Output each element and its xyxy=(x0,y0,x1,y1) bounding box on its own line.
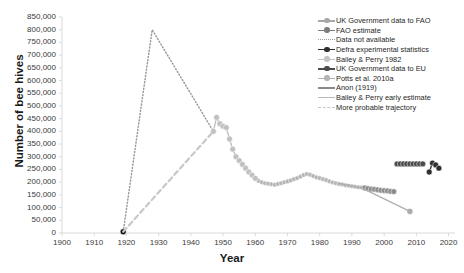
legend-item[interactable]: UK Government data to EU xyxy=(318,64,464,74)
legend-item-label: Data not available xyxy=(336,35,395,44)
data-point xyxy=(252,175,258,181)
legend-item[interactable]: Bailey & Perry 1982 xyxy=(318,54,464,64)
legend-item-label: FAO estimate xyxy=(336,26,381,35)
legend-marker-icon xyxy=(318,16,335,25)
legend-item-label: Defra experimental statistics xyxy=(336,45,429,54)
legend-item[interactable]: Data not available xyxy=(318,35,464,45)
data-point xyxy=(230,146,236,152)
chart-legend: UK Government data to FAOFAO estimateDat… xyxy=(318,16,464,112)
legend-item-label: Bailey & Perry 1982 xyxy=(336,55,401,64)
legend-item[interactable]: Potts et al. 2010a xyxy=(318,74,464,84)
bee-hives-chart: Number of bee hives Year 050,000100,0001… xyxy=(0,0,464,273)
legend-marker-icon xyxy=(318,83,335,92)
data-point xyxy=(391,189,397,195)
legend-item-label: Potts et al. 2010a xyxy=(336,74,394,83)
series-data-not-available xyxy=(123,30,213,232)
legend-marker-icon xyxy=(318,26,335,35)
data-point xyxy=(436,165,442,171)
legend-item[interactable]: More probable trajectory xyxy=(318,102,464,112)
legend-item[interactable]: UK Government data to FAO xyxy=(318,16,464,26)
legend-item-label: UK Government data to FAO xyxy=(336,16,430,25)
series-more-probable-trajectory xyxy=(123,131,213,231)
data-point xyxy=(426,169,432,175)
data-point xyxy=(420,161,426,167)
series-line xyxy=(123,131,213,231)
series-uk-government-data-to-eu xyxy=(394,161,426,167)
legend-marker-icon xyxy=(318,35,335,44)
legend-item-label: UK Government data to EU xyxy=(336,64,426,73)
legend-item[interactable]: Bailey & Perry early estimate xyxy=(318,93,464,103)
series-defra-experimental-statistics xyxy=(426,160,441,175)
legend-marker-icon xyxy=(318,45,335,54)
legend-marker-icon xyxy=(318,103,335,112)
legend-marker-icon xyxy=(318,74,335,83)
legend-marker-icon xyxy=(318,93,335,102)
legend-item-label: Anon (1919) xyxy=(336,83,377,92)
legend-item[interactable]: Anon (1919) xyxy=(318,83,464,93)
data-point xyxy=(227,136,233,142)
data-point xyxy=(214,114,220,120)
series-line xyxy=(123,30,213,232)
legend-item[interactable]: Defra experimental statistics xyxy=(318,45,464,55)
legend-marker-icon xyxy=(318,64,335,73)
legend-item[interactable]: FAO estimate xyxy=(318,26,464,36)
data-point xyxy=(223,125,229,131)
legend-item-label: More probable trajectory xyxy=(336,103,416,112)
legend-marker-icon xyxy=(318,55,335,64)
series-uk-government-data-to-fao xyxy=(256,172,364,190)
series-bailey-perry-1982 xyxy=(211,114,259,181)
legend-item-label: Bailey & Perry early estimate xyxy=(336,93,431,102)
